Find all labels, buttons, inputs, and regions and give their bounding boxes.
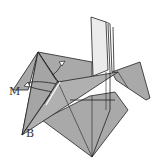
label-b: B <box>26 127 34 140</box>
label-m: M <box>9 85 20 98</box>
origami-diagram: M B <box>0 0 159 163</box>
origami-figure <box>0 0 159 163</box>
